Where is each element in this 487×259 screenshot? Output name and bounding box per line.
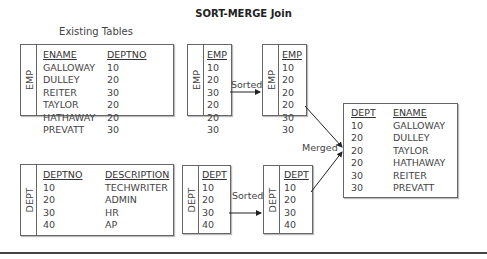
flow-arrows [0,0,487,259]
merged-label: Merged [302,142,338,153]
sorted-dept-label: Sorted [232,190,263,201]
bottom-divider [0,252,487,254]
sorted-emp-label: Sorted [231,79,262,90]
